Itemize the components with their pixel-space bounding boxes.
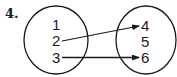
mapping-diagram: 4. 1 2 3 4 5 6: [0, 0, 177, 77]
domain-element-2: 2: [52, 32, 60, 49]
domain-element-1: 1: [52, 16, 60, 33]
domain-element-3: 3: [52, 49, 60, 66]
range-element-5: 5: [141, 33, 149, 50]
range-element-4: 4: [141, 17, 149, 34]
range-element-6: 6: [141, 49, 149, 66]
arrow-2-to-4: [62, 26, 139, 41]
mapping-svg: 1 2 3 4 5 6: [0, 0, 177, 77]
problem-number: 4.: [5, 6, 19, 21]
